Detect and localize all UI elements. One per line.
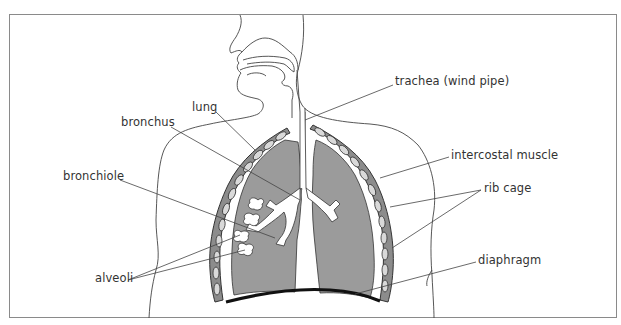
label-bronchus: bronchus [121,116,175,129]
label-intercostal-muscle: intercostal muscle [451,149,558,162]
leader-alveoli-2 [128,250,245,280]
label-alveoli: alveoli [95,272,133,285]
right-lung [312,140,374,298]
label-diaphragm: diaphragm [478,254,541,267]
respiratory-system-illustration [0,0,621,325]
leader-trachea [305,85,393,120]
label-rib-cage: rib cage [484,182,531,195]
leader-intercostal [380,157,449,178]
label-trachea: trachea (wind pipe) [395,75,509,88]
label-bronchiole: bronchiole [63,170,124,183]
leader-lung [216,112,255,150]
leader-alveoli-1 [128,235,240,280]
label-lung: lung [192,101,217,114]
